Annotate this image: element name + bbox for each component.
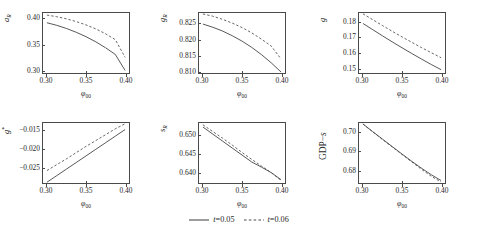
y-tick-label: −0.025 <box>19 164 40 171</box>
legend-label-1: t=0.06 <box>268 216 289 224</box>
legend-entry-0: t=0.05 <box>189 216 234 224</box>
y-tick-label: 0.68 <box>343 167 356 174</box>
y-tick-label: 0.69 <box>343 147 356 154</box>
y-tick-mark <box>198 23 201 24</box>
x-tick-label: 0.40 <box>113 187 139 194</box>
series-line-2 <box>47 15 125 57</box>
plot-area-6 <box>358 122 446 184</box>
x-tick-label: 0.35 <box>389 77 415 84</box>
series-line-1 <box>47 23 125 71</box>
series-line-1 <box>203 24 281 72</box>
x-tick-label: 0.35 <box>389 187 415 194</box>
y-tick-label: 0.17 <box>343 33 356 40</box>
plot-curves-4 <box>43 123 129 183</box>
x-tick-label: 0.35 <box>229 77 255 84</box>
x-tick-label: 0.40 <box>429 187 455 194</box>
y-tick-mark <box>198 154 201 155</box>
y-tick-mark <box>42 18 45 19</box>
x-tick-label: 0.35 <box>73 77 99 84</box>
y-tick-mark <box>198 135 201 136</box>
plot-area-1 <box>42 12 130 74</box>
y-tick-labels-4: −0.025−0.020−0.015 <box>0 116 40 190</box>
plot-area-2 <box>198 12 286 74</box>
y-tick-mark <box>198 56 201 57</box>
y-tick-mark <box>42 71 45 72</box>
series-line-2 <box>47 124 125 171</box>
y-tick-label: 0.810 <box>179 68 196 75</box>
chart-panel-3: g 0.150.160.170.18 φ00 0.300.350.40 <box>316 6 468 118</box>
legend-swatch-solid <box>189 217 209 223</box>
x-axis-title-1: φ00 <box>42 90 130 98</box>
plot-curves-5 <box>199 123 285 183</box>
y-tick-mark <box>358 132 361 133</box>
legend-entry-1: t=0.06 <box>244 216 289 224</box>
x-tick-label: 0.30 <box>189 187 215 194</box>
x-tick-minor-mark <box>402 71 403 74</box>
y-tick-label: 0.815 <box>179 52 196 59</box>
y-tick-label: 0.70 <box>343 128 356 135</box>
series-line-1 <box>47 130 125 183</box>
x-tick-minor-mark <box>86 181 87 184</box>
chart-panel-5: sR 0.6400.6450.650 φ00 0.300.350.40 <box>156 116 308 228</box>
x-tick-label: 0.40 <box>113 77 139 84</box>
chart-panel-1: aR 0.300.350.40 φ00 0.300.350.40 <box>0 6 152 118</box>
x-tick-label: 0.30 <box>189 77 215 84</box>
x-tick-label: 0.30 <box>349 187 375 194</box>
x-axis-title-5: φ00 <box>198 200 286 208</box>
series-line-1 <box>363 124 441 181</box>
y-tick-label: 0.820 <box>179 36 196 43</box>
y-tick-mark <box>42 168 45 169</box>
y-tick-label: 0.16 <box>343 49 356 56</box>
x-tick-label: 0.35 <box>73 187 99 194</box>
y-tick-label: 0.35 <box>27 41 40 48</box>
x-axis-title-2: φ00 <box>198 90 286 98</box>
y-tick-mark <box>358 69 361 70</box>
y-tick-labels-6: 0.680.690.70 <box>316 116 356 190</box>
legend-swatch-dashed <box>244 217 264 223</box>
x-tick-minor-mark <box>86 71 87 74</box>
y-tick-label: 0.15 <box>343 65 356 72</box>
plot-curves-6 <box>359 123 445 183</box>
series-line-2 <box>363 14 441 58</box>
x-tick-minor-mark <box>242 71 243 74</box>
y-tick-label: −0.020 <box>19 145 40 152</box>
x-tick-minor-mark <box>242 181 243 184</box>
x-tick-label: 0.40 <box>269 187 295 194</box>
y-tick-mark <box>42 149 45 150</box>
x-axis-title-4: φ00 <box>42 200 130 208</box>
plot-curves-2 <box>199 13 285 73</box>
x-tick-label: 0.30 <box>33 77 59 84</box>
y-tick-mark <box>42 45 45 46</box>
series-line-1 <box>363 23 441 69</box>
y-tick-mark <box>198 173 201 174</box>
y-tick-label: 0.650 <box>179 131 196 138</box>
chart-panel-2: gR 0.8100.8150.8200.825 φ00 0.300.350.40 <box>156 6 308 118</box>
y-tick-mark <box>42 130 45 131</box>
plot-area-3 <box>358 12 446 74</box>
x-tick-label: 0.30 <box>349 77 375 84</box>
x-axis-title-6: φ00 <box>358 200 446 208</box>
plot-area-5 <box>198 122 286 184</box>
y-tick-labels-5: 0.6400.6450.650 <box>156 116 196 190</box>
x-tick-label: 0.40 <box>429 77 455 84</box>
series-line-2 <box>203 14 281 59</box>
y-tick-label: 0.30 <box>27 67 40 74</box>
figure-panel-grid: aR 0.300.350.40 φ00 0.300.350.40 gR 0.81… <box>0 0 478 242</box>
y-tick-mark <box>358 171 361 172</box>
y-tick-label: 0.825 <box>179 19 196 26</box>
x-tick-label: 0.30 <box>33 187 59 194</box>
y-tick-labels-1: 0.300.350.40 <box>0 6 40 80</box>
plot-area-4 <box>42 122 130 184</box>
y-tick-labels-2: 0.8100.8150.8200.825 <box>156 6 196 80</box>
y-tick-label: 0.640 <box>179 169 196 176</box>
plot-curves-1 <box>43 13 129 73</box>
y-tick-labels-3: 0.150.160.170.18 <box>316 6 356 80</box>
y-tick-mark <box>358 53 361 54</box>
x-tick-minor-mark <box>402 181 403 184</box>
y-tick-mark <box>198 40 201 41</box>
y-tick-label: 0.40 <box>27 14 40 21</box>
series-line-2 <box>203 125 281 181</box>
y-tick-mark <box>358 151 361 152</box>
chart-panel-4: g* −0.025−0.020−0.015 φ00 0.300.350.40 <box>0 116 152 228</box>
y-tick-label: −0.015 <box>19 126 40 133</box>
